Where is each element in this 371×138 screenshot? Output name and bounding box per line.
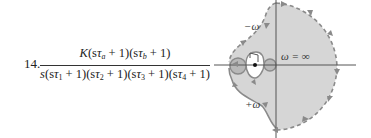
neg-omega-label: −ω (244, 20, 259, 32)
critical-point (253, 63, 257, 67)
arrow-icon (327, 96, 333, 102)
omega-infinity-label: ω = ∞ (281, 50, 310, 62)
pos-omega-label: +ω (245, 98, 260, 110)
nyquist-plot: −ω +ω ω = ∞ (0, 0, 371, 138)
